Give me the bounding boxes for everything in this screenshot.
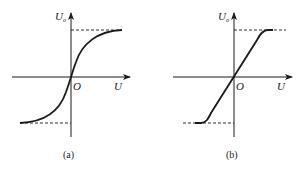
x-axis-label: U xyxy=(277,80,286,92)
y-axis-label: Uo xyxy=(218,10,229,23)
panel-caption: (a) xyxy=(63,149,74,161)
panel-a: Uo O U (a) xyxy=(12,10,130,161)
figure-canvas: Uo O U (a) Uo O U (b) xyxy=(0,0,304,172)
origin-label: O xyxy=(73,80,81,92)
x-axis-label: U xyxy=(114,80,123,92)
origin-label: O xyxy=(236,80,244,92)
y-axis-label: Uo xyxy=(55,10,66,23)
panel-b: Uo O U (b) xyxy=(173,10,292,161)
panel-caption: (b) xyxy=(226,149,238,161)
